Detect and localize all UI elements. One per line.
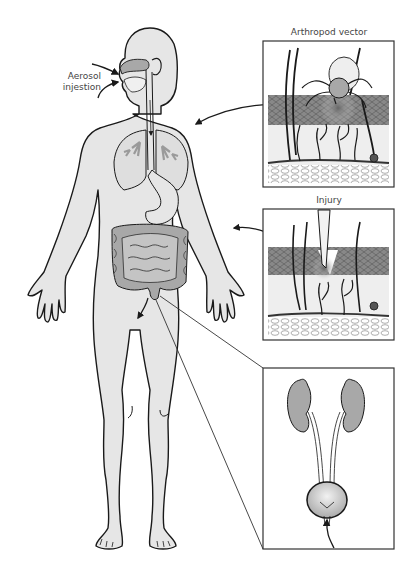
aerosol-label-line-2: injestion [56, 82, 101, 93]
panel-urinary-tract [263, 368, 394, 549]
aerosol-arrow-2 [98, 82, 118, 98]
aerosol-label: Aerosol injestion [56, 71, 101, 93]
bladder [307, 482, 347, 518]
tick-body [329, 78, 349, 98]
injury-title: Injury [316, 195, 342, 206]
ear [152, 58, 161, 74]
aerosol-label-line-1: Aerosol [56, 71, 101, 82]
callout-line-bottom [156, 300, 263, 549]
panel-injury [263, 209, 394, 340]
human-body [28, 28, 244, 549]
panel-arthropod-vector [263, 41, 394, 187]
arthropod-vector-title: Arthropod vector [291, 27, 367, 38]
intestines [112, 224, 188, 299]
